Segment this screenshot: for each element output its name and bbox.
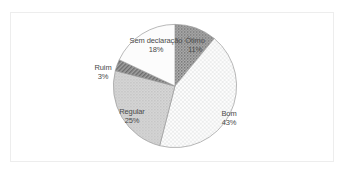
slice-label-bom-value: 43% (207, 118, 251, 127)
slice-label-sem-declaracao-value: 18% (129, 46, 183, 55)
slice-label-ruim: Ruim 3% (85, 63, 121, 81)
slice-label-bom-name: Bom (207, 109, 251, 118)
slice-label-regular-value: 25% (107, 116, 157, 125)
clipped-header-text (8, 0, 128, 6)
chart-card: Ótimo 11% Bom 43% Regular 25% Ruim 3% Se… (10, 12, 334, 162)
slice-label-ruim-value: 3% (85, 72, 121, 81)
slice-label-ruim-name: Ruim (85, 63, 121, 72)
slice-label-sem-declaracao: Sem declaração 18% (129, 37, 183, 54)
pie-chart: Ótimo 11% Bom 43% Regular 25% Ruim 3% Se… (11, 13, 333, 161)
slice-label-bom: Bom 43% (207, 109, 251, 127)
slice-label-regular-name: Regular (107, 107, 157, 116)
slice-label-regular: Regular 25% (107, 107, 157, 125)
